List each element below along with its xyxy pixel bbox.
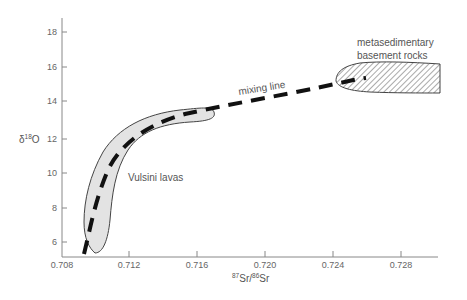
chart: 6 8 10 12 14 16 18 0.708 0.712 0.716 0.7…: [0, 0, 467, 300]
x-axis: 0.708 0.712 0.716 0.720 0.724 0.728: [51, 251, 438, 270]
y-tick-6: 6: [52, 237, 57, 247]
y-axis: 6 8 10 12 14 16 18: [47, 18, 67, 257]
x-tick-0728: 0.728: [390, 260, 413, 270]
y-tick-10: 10: [47, 168, 57, 178]
x-axis-label: 87Sr/86Sr: [232, 272, 270, 284]
x-tick-0716: 0.716: [186, 260, 209, 270]
y-tick-12: 12: [47, 134, 57, 144]
x-tick-0708: 0.708: [51, 260, 74, 270]
y-tick-18: 18: [47, 27, 57, 37]
y-tick-8: 8: [52, 203, 57, 213]
x-tick-0720: 0.720: [254, 260, 277, 270]
mixing-line: [84, 78, 366, 254]
metasedimentary-basement-field: [336, 62, 440, 93]
metasedimentary-label-line1: metasedimentary: [357, 37, 434, 48]
y-tick-14: 14: [47, 96, 57, 106]
metasedimentary-label-line2: basement rocks: [357, 50, 428, 61]
y-tick-16: 16: [47, 62, 57, 72]
x-tick-0712: 0.712: [118, 260, 141, 270]
x-tick-0724: 0.724: [322, 260, 345, 270]
vulsini-lavas-label: Vulsini lavas: [128, 172, 183, 183]
y-axis-label: δ18O: [19, 133, 40, 145]
